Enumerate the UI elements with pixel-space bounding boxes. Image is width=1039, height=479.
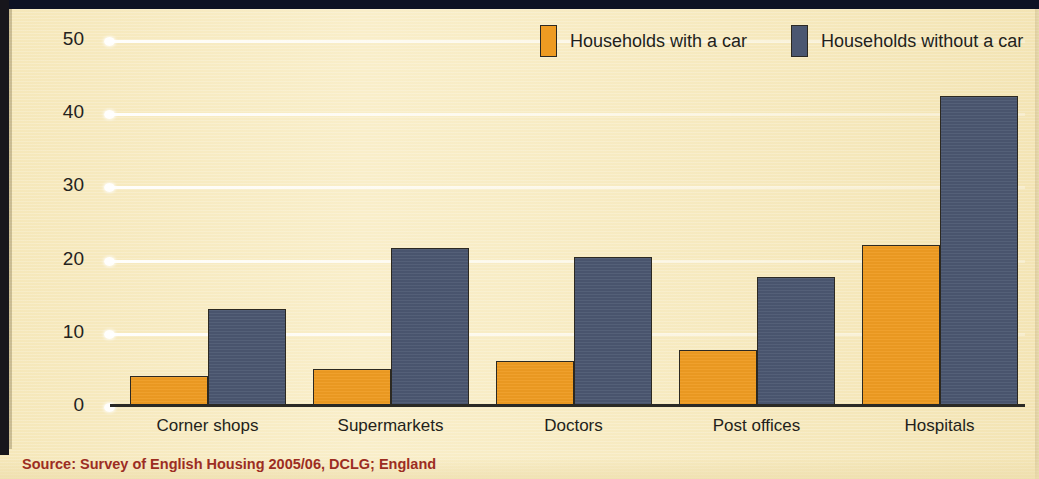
bar-with-car [496, 361, 574, 407]
legend-label: Households with a car [570, 31, 747, 52]
x-axis-category-labels: Corner shopsSupermarketsDoctorsPost offi… [110, 416, 1025, 442]
legend-label: Households without a car [821, 31, 1023, 52]
y-axis-tick-label: 10 [0, 321, 84, 343]
source-note: Source: Survey of English Housing 2005/0… [22, 456, 436, 472]
bar-with-car [679, 350, 757, 407]
chart-figure: Proportion of households saying that the… [0, 0, 1039, 479]
x-axis-category-label: Post offices [657, 416, 857, 436]
bar-group [130, 41, 286, 407]
y-axis-tick-label: 30 [0, 174, 84, 196]
y-axis-tick-label: 0 [0, 394, 84, 416]
y-axis-tick-label: 40 [0, 101, 84, 123]
bar-group [313, 41, 469, 407]
bar-without-car [574, 257, 652, 407]
bar-group [862, 41, 1018, 407]
bar-without-car [208, 309, 286, 407]
bar-without-car [391, 248, 469, 407]
legend-item: Households without a car [791, 25, 1023, 57]
y-axis-tick-labels: 01020304050 [0, 0, 110, 407]
x-axis-category-label: Hospitals [840, 416, 1039, 436]
bar-groups [110, 41, 1025, 407]
y-axis-tick-label: 50 [0, 28, 84, 50]
right-page-edge [1035, 9, 1039, 479]
bar-with-car [313, 369, 391, 407]
bar-group [679, 41, 835, 407]
legend-swatch-without-car [791, 25, 808, 57]
y-axis-tick-label: 20 [0, 248, 84, 270]
bar-with-car [862, 245, 940, 408]
bar-with-car [130, 376, 208, 407]
legend: Households with a carHouseholds without … [540, 24, 1023, 58]
x-axis-category-label: Corner shops [108, 416, 308, 436]
x-axis-category-label: Doctors [474, 416, 674, 436]
legend-swatch-with-car [540, 25, 557, 57]
top-border-band [0, 0, 1039, 9]
x-axis-baseline [110, 404, 1025, 407]
x-axis-category-label: Supermarkets [291, 416, 491, 436]
plot-area [110, 41, 1025, 407]
bar-without-car [940, 96, 1018, 407]
legend-item: Households with a car [540, 25, 747, 57]
bar-without-car [757, 277, 835, 407]
bar-group [496, 41, 652, 407]
